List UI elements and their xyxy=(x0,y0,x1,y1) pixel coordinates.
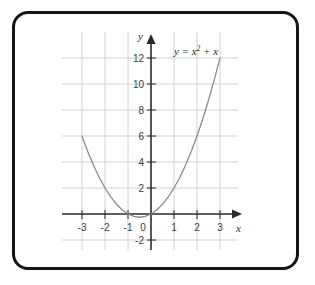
tick-label-x-neg1: -1 xyxy=(124,222,133,233)
tick-label-y-2: 2 xyxy=(138,183,144,194)
tick-label-x-neg3: -3 xyxy=(78,222,87,233)
origin-label: 0 xyxy=(140,222,146,233)
tick-label-x-neg2: -2 xyxy=(101,222,110,233)
y-axis-arrow-icon xyxy=(147,34,156,44)
tick-label-y-10: 10 xyxy=(133,79,145,90)
graph-svg: 12 10 8 6 4 2 -2 -3 -2 -1 1 2 3 0 y x y … xyxy=(0,0,315,285)
x-axis-label: x xyxy=(235,222,241,234)
tick-label-y-4: 4 xyxy=(138,157,144,168)
tick-label-y-6: 6 xyxy=(138,131,144,142)
tick-label-y-neg2: -2 xyxy=(135,235,144,246)
equation-base: y = x xyxy=(173,45,197,57)
tick-label-y-12: 12 xyxy=(133,53,145,64)
y-axis-label: y xyxy=(137,30,143,42)
equation-tail: + x xyxy=(200,45,218,57)
tick-label-x-3: 3 xyxy=(217,222,223,233)
grid-lines xyxy=(62,32,238,250)
tick-label-y-8: 8 xyxy=(138,105,144,116)
tick-label-x-2: 2 xyxy=(194,222,200,233)
curve-equation-label: y = x2 + x xyxy=(173,44,218,57)
plot-area: 12 10 8 6 4 2 -2 -3 -2 -1 1 2 3 0 y x y … xyxy=(0,0,315,285)
tick-label-x-1: 1 xyxy=(171,222,177,233)
axis-lines xyxy=(62,34,242,250)
x-axis-arrow-icon xyxy=(232,210,242,219)
